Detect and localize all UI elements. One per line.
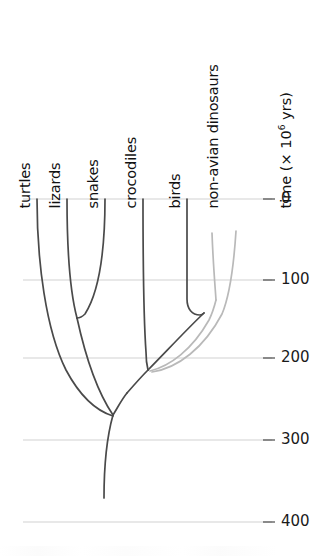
phylogenetic-tree-figure: turtles lizards snakes crocodiles birds … (0, 0, 315, 556)
taxon-label-crocodiles: crocodiles (124, 137, 139, 209)
branch-archosaur-stem (127, 370, 148, 393)
taxon-label-birds: birds (168, 174, 183, 209)
axis-title-exponent: 6 (277, 125, 287, 131)
tick-label-200: 200 (281, 350, 310, 365)
tick-label-300: 300 (281, 432, 310, 447)
taxon-label-turtles: turtles (18, 163, 33, 209)
tree-branches (37, 199, 204, 498)
tick-label-100: 100 (281, 272, 310, 287)
branch-lizards (67, 199, 77, 318)
axis-title-tail: yrs) (278, 92, 294, 124)
taxon-label-lizards: lizards (48, 163, 63, 209)
axis-ticks (263, 199, 275, 522)
tick-label-400: 400 (281, 514, 310, 529)
branch-crocodiles (143, 199, 148, 370)
extinct-branches (150, 231, 236, 372)
branch-squamate-stem (77, 318, 113, 415)
branch-nonavian-dinosaur-2 (152, 231, 236, 372)
tick-label-0: 0 (281, 191, 291, 206)
branch-dinosaur-stem (148, 313, 204, 370)
taxon-label-snakes: snakes (86, 159, 101, 208)
branch-birds (187, 199, 204, 315)
scan-artifact (0, 546, 315, 556)
branch-snakes (77, 199, 105, 318)
branch-root (104, 415, 113, 498)
taxon-label-non-avian-dinosaurs: non-avian dinosaurs (206, 64, 221, 208)
tree-canvas (0, 0, 315, 556)
branch-amniote-stem (113, 393, 127, 415)
branch-nonavian-dinosaur-1 (212, 233, 216, 300)
